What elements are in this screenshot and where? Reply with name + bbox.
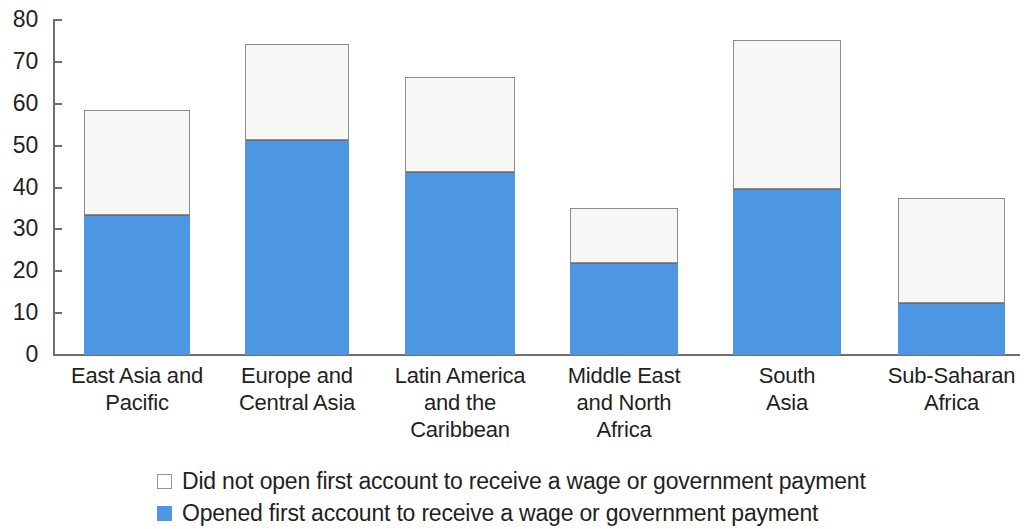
bar-segment-did-not-open[interactable] [733,40,841,189]
bar-segment-did-not-open[interactable] [898,198,1005,303]
x-axis-label-line: and North [529,389,719,416]
bar-group [733,40,841,355]
x-axis-label-line: Caribbean [365,416,555,443]
bar-group [898,198,1005,355]
x-axis-label-line: Latin America [365,362,555,389]
chart-legend: Did not open first account to receive a … [0,464,1027,529]
bar-segment-did-not-open[interactable] [405,77,515,172]
x-axis-label-1: Europe andCentral Asia [202,362,392,416]
bar-group [245,44,349,355]
x-axis-label-4: SouthAsia [692,362,882,416]
bar-series-container [0,0,1027,356]
bar-segment-did-not-open[interactable] [245,44,349,140]
x-axis-label-line: Sub-Saharan [857,362,1027,389]
bar-segment-did-not-open[interactable] [570,208,678,263]
bar-segment-opened[interactable] [245,140,349,355]
x-axis-label-5: Sub-SaharanAfrica [857,362,1027,416]
bar-segment-opened[interactable] [898,303,1005,355]
bar-segment-opened[interactable] [570,263,678,355]
legend-item-opened[interactable]: Opened first account to receive a wage o… [157,500,818,527]
bar-segment-did-not-open[interactable] [84,110,190,215]
legend-swatch-white-icon [157,474,172,489]
x-axis-label-line: Central Asia [202,389,392,416]
bar-group [84,110,190,355]
bar-segment-opened[interactable] [733,189,841,355]
x-axis-label-2: Latin Americaand theCaribbean [365,362,555,443]
x-axis-label-line: Africa [529,416,719,443]
x-axis-category-labels: East Asia andPacificEurope andCentral As… [0,362,1027,462]
x-axis-label-line: and the [365,389,555,416]
legend-label-opened: Opened first account to receive a wage o… [182,500,818,527]
bar-group [570,208,678,355]
x-axis-label-3: Middle Eastand NorthAfrica [529,362,719,443]
x-axis-label-line: Europe and [202,362,392,389]
legend-swatch-blue-icon [157,506,172,521]
legend-item-did-not-open[interactable]: Did not open first account to receive a … [157,468,866,495]
plot-area: 80706050403020100 East Asia andPacificEu… [0,0,1027,470]
x-axis-label-line: Asia [692,389,882,416]
x-axis-label-line: South [692,362,882,389]
bar-segment-opened[interactable] [84,215,190,355]
bar-segment-opened[interactable] [405,172,515,355]
legend-label-did-not-open: Did not open first account to receive a … [182,468,866,495]
x-axis-label-line: Africa [857,389,1027,416]
x-axis-label-line: Middle East [529,362,719,389]
bar-group [405,77,515,355]
chart-figure: 80706050403020100 East Asia andPacificEu… [0,0,1027,529]
